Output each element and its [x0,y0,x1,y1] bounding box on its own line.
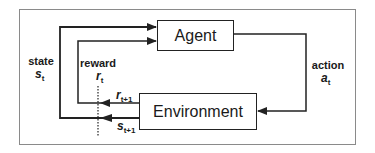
environment-node: Environment [139,93,257,130]
next-state-symbol: st+1 [117,119,135,135]
state-next-arrowhead [100,114,112,122]
state-label: state [24,55,58,67]
next-reward-symbol: rt+1 [116,88,132,104]
reward-symbol: rt [96,69,103,85]
reward-label: reward [80,57,116,69]
state-symbol: st [35,67,44,83]
reward-next-arrowhead [100,99,110,107]
agent-node: Agent [157,20,234,51]
agent-label: Agent [175,27,217,45]
action-symbol: at [321,71,330,87]
environment-label: Environment [153,103,243,121]
action-label: action [310,59,346,71]
